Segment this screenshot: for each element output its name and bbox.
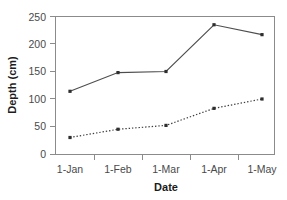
- data-point-solid-series-1-Mar: [164, 70, 167, 73]
- y-axis-ticks: [50, 17, 55, 155]
- series-layer: [68, 23, 263, 139]
- y-tick-label-250: 250: [28, 11, 46, 23]
- data-point-dotted-series-1-May: [260, 97, 263, 100]
- y-tick-label-100: 100: [28, 93, 46, 105]
- data-point-dotted-series-1-Feb: [116, 128, 119, 131]
- x-tick-label-jan: 1-Jan: [57, 163, 83, 175]
- plot-area-border: [56, 17, 275, 155]
- y-tick-label-50: 50: [34, 120, 46, 132]
- line-chart: 0 50 100 150 200 250 Depth (cm) 1-Jan 1-…: [0, 0, 287, 200]
- data-point-solid-series-1-Jan: [68, 90, 71, 93]
- x-axis-tick-labels: 1-Jan 1-Feb 1-Mar 1-Apr 1-May: [57, 163, 277, 175]
- data-point-dotted-series-1-Mar: [164, 124, 167, 127]
- y-tick-label-200: 200: [28, 38, 46, 50]
- x-tick-label-apr: 1-Apr: [201, 163, 227, 175]
- x-tick-label-feb: 1-Feb: [104, 163, 132, 175]
- y-tick-label-0: 0: [40, 148, 46, 160]
- chart-canvas: 0 50 100 150 200 250 Depth (cm) 1-Jan 1-…: [0, 0, 287, 200]
- data-point-dotted-series-1-Apr: [212, 107, 215, 110]
- data-point-dotted-series-1-Jan: [68, 136, 71, 139]
- data-point-solid-series-1-Apr: [212, 23, 215, 26]
- series-line-solid-series: [70, 25, 262, 92]
- x-tick-label-mar: 1-Mar: [152, 163, 180, 175]
- data-point-solid-series-1-Feb: [116, 71, 119, 74]
- data-point-solid-series-1-May: [260, 33, 263, 36]
- y-axis-tick-labels: 0 50 100 150 200 250: [28, 11, 46, 161]
- x-tick-label-may: 1-May: [247, 163, 277, 175]
- y-axis-title: Depth (cm): [6, 56, 18, 114]
- series-line-dotted-series: [70, 99, 262, 138]
- y-tick-label-150: 150: [28, 65, 46, 77]
- x-axis-title: Date: [154, 181, 178, 193]
- x-axis-ticks: [94, 154, 238, 160]
- plot-frame: [56, 17, 275, 155]
